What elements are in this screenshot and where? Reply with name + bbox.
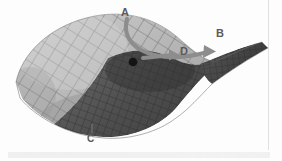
label-a: A (121, 6, 129, 18)
saddle-point-dot (129, 58, 138, 67)
surface-mesh-illustration (0, 0, 282, 161)
surface-mesh-figure: A B C D (0, 0, 282, 161)
label-d: D (180, 45, 188, 57)
label-b: B (216, 27, 224, 39)
page-edge-line (268, 0, 269, 150)
scan-noise-artifact (8, 152, 270, 158)
label-c: C (87, 133, 94, 144)
